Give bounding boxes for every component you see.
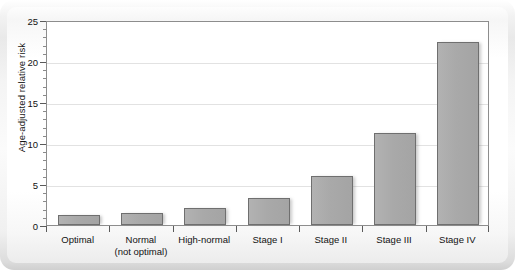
y-axis: 0510152025 (0, 21, 46, 226)
bar (311, 176, 353, 225)
x-axis-tick (362, 226, 363, 232)
x-axis-category-label: Stage I (236, 234, 299, 246)
x-axis-tick (299, 226, 300, 232)
x-axis-category-label: Stage IV (426, 234, 489, 246)
y-axis-tick-label: 25 (27, 16, 38, 27)
x-axis-tick (173, 226, 174, 232)
y-axis-tick-label: 20 (27, 57, 38, 68)
x-axis-tick (109, 226, 110, 232)
gridline (47, 186, 488, 187)
y-axis-tick-label: 10 (27, 139, 38, 150)
y-axis-tick-label: 5 (33, 180, 38, 191)
gridline (47, 104, 488, 105)
y-axis-tick-label: 15 (27, 98, 38, 109)
x-axis-category-label: Optimal (46, 234, 109, 246)
x-axis-tick (426, 226, 427, 232)
category-label-line1: Optimal (61, 234, 94, 245)
gridline (47, 63, 488, 64)
gridlines (47, 22, 488, 225)
plot-area (46, 21, 489, 226)
bar (437, 42, 479, 225)
bar (58, 215, 100, 225)
category-label-line1: Stage IV (439, 234, 475, 245)
bar (374, 133, 416, 225)
category-label-line1: Stage III (376, 234, 411, 245)
x-axis: OptimalNormal(not optimal)High-normalSta… (46, 226, 489, 270)
bar (248, 198, 290, 225)
bar (184, 208, 226, 225)
category-label-line1: Stage II (314, 234, 347, 245)
x-axis-category-label: Normal(not optimal) (109, 234, 172, 258)
category-label-line1: Stage I (252, 234, 282, 245)
gridline (47, 145, 488, 146)
bar-chart: Age-adjusted relative risk 0510152025 Op… (0, 0, 515, 270)
x-axis-category-label: Stage II (299, 234, 362, 246)
category-label-line1: Normal (126, 234, 157, 245)
bar (121, 213, 163, 225)
x-axis-tick (236, 226, 237, 232)
x-axis-category-label: High-normal (173, 234, 236, 246)
category-label-line2: (not optimal) (109, 246, 172, 258)
x-axis-tick (488, 226, 489, 232)
category-label-line1: High-normal (178, 234, 230, 245)
x-axis-category-label: Stage III (362, 234, 425, 246)
x-axis-tick (46, 226, 47, 232)
y-axis-tick-label: 0 (33, 221, 38, 232)
